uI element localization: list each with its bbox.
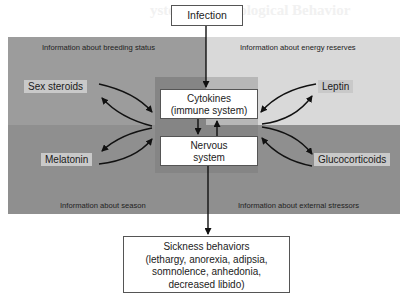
arrow-leptin-to-center xyxy=(261,84,316,112)
arrow-glucocorticoids-to-center xyxy=(262,138,312,166)
arrow-sex-steroids-to-center xyxy=(99,84,152,112)
arrow-center-to-leptin xyxy=(262,96,312,124)
arrows-layer xyxy=(0,0,412,299)
arrow-center-to-glucocorticoids xyxy=(262,127,312,154)
arrow-center-to-sex-steroids xyxy=(102,98,152,126)
arrow-melatonin-to-center xyxy=(99,139,152,164)
